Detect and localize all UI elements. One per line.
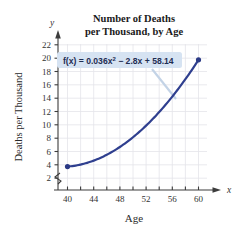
y-tick-label: 20 [42,53,52,63]
right-endpoint-marker [196,57,201,62]
x-tick-label: 44 [89,194,99,204]
y-tick-label: 18 [42,67,52,77]
y-tick-label: 14 [42,93,52,103]
y-tick-label: 2 [47,173,52,183]
equation-quadratic-term: 0.036x [86,56,113,66]
x-tick-label: 40 [63,194,73,204]
chart-figure: Number of Deaths per Thousand, by Age [0,0,242,238]
x-axis-title: Age [125,212,143,224]
equation-text: f(x) = 0.036x2 − 2.8x + 58.14 [63,56,174,66]
chart-title-line1: Number of Deaths [93,13,175,24]
y-axis-title: Deaths per Thousand [13,72,24,162]
y-tick-label: 6 [47,147,52,157]
y-tick-label: 4 [47,160,52,170]
left-endpoint-marker [65,164,70,169]
y-axis-marker: y [49,18,55,28]
y-tick-label: 8 [47,133,52,143]
y-tick-label: 12 [42,107,51,117]
x-axis-marker: x [226,185,232,195]
y-tick-label: 22 [42,40,51,50]
equation-annotation: f(x) = 0.036x2 − 2.8x + 58.14 [57,52,182,68]
y-tick-label: 16 [42,80,52,90]
deaths-per-thousand-chart: Number of Deaths per Thousand, by Age [0,0,242,238]
equation-remainder: − 2.8x + 58.14 [116,56,174,66]
x-tick-label: 48 [115,194,125,204]
y-tick-label: 10 [42,120,52,130]
x-tick-label: 60 [194,194,204,204]
equation-lhs: f(x) = [63,56,86,66]
x-tick-label: 56 [168,194,178,204]
chart-title-line2: per Thousand, by Age [85,26,184,37]
x-tick-label: 52 [142,194,151,204]
